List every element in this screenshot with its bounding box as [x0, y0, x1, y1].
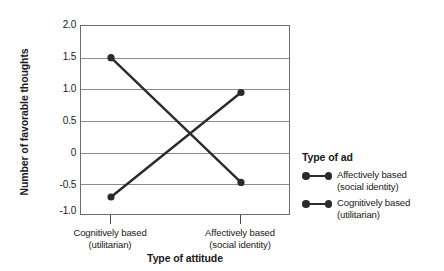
x-tick-label-line2: (utilitarian) [48, 239, 172, 251]
x-tick-label-line1: Affectively based [178, 227, 302, 239]
data-point [237, 179, 244, 186]
legend-item-label: Cognitively based (utilitarian) [337, 197, 410, 220]
x-tick-label-cognitively-based: Cognitively based (utilitarian) [48, 227, 172, 251]
legend-item-label: Affectively based (social identity) [337, 169, 407, 192]
y-axis-title: Number of favorable thoughts [18, 22, 30, 222]
series-overlay [81, 26, 291, 216]
legend-label-line2: (social identity) [337, 181, 398, 192]
x-axis-title: Type of attitude [80, 252, 290, 264]
y-tick-label: 2.0 [42, 20, 76, 30]
x-tick-label-line1: Cognitively based [48, 227, 172, 239]
legend-title: Type of ad [302, 151, 442, 163]
series-line [111, 58, 241, 183]
y-tick-label: -0.5 [42, 180, 76, 190]
legend-label-line1: Affectively based [337, 169, 407, 180]
series-line [111, 93, 241, 198]
legend-line-marker-icon [302, 170, 332, 182]
x-tick-mark [240, 215, 241, 224]
y-tick-label: 0 [42, 148, 76, 158]
legend: Type of ad Affectively based (social ide… [302, 151, 442, 225]
interaction-line-chart: Number of favorable thoughts 2.0 1.5 1.0… [0, 0, 444, 271]
data-point [107, 54, 114, 61]
x-tick-label-affectively-based: Affectively based (social identity) [178, 227, 302, 251]
data-point [107, 193, 114, 200]
x-tick-label-line2: (social identity) [178, 239, 302, 251]
y-tick-label: 1.5 [42, 52, 76, 62]
data-point [237, 89, 244, 96]
y-tick-label: 1.0 [42, 84, 76, 94]
legend-label-line2: (utilitarian) [337, 209, 380, 220]
legend-item-affectively-based: Affectively based (social identity) [302, 169, 442, 192]
legend-line-marker-icon [302, 198, 332, 210]
plot-area [80, 25, 290, 215]
x-tick-mark [110, 215, 111, 224]
legend-label-line1: Cognitively based [337, 197, 410, 208]
legend-item-cognitively-based: Cognitively based (utilitarian) [302, 197, 442, 220]
y-tick-label: -1.0 [42, 206, 76, 216]
y-tick-label: 0.5 [42, 116, 76, 126]
